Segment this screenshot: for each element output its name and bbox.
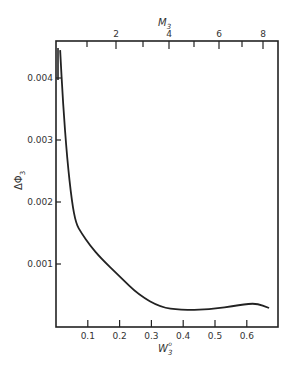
y-tick-label: 0.001: [27, 259, 53, 269]
plot-frame: [56, 41, 278, 327]
y-tick-label: 0.004: [27, 73, 53, 83]
y-axis-label: ΔΦ3: [13, 171, 27, 190]
top-axis-label: M3: [158, 17, 171, 31]
x-tick-label: 0.6: [240, 331, 255, 341]
top-axis-ticks: 2468: [87, 29, 266, 49]
top-tick-label: 2: [113, 29, 119, 39]
x-tick-label: 0.4: [176, 331, 191, 341]
y-tick-label: 0.003: [27, 135, 53, 145]
x-axis-ticks: 0.10.20.30.40.50.6: [81, 320, 255, 341]
x-tick-label: 0.1: [81, 331, 95, 341]
y-tick-label: 0.002: [27, 197, 53, 207]
x-tick-label: 0.2: [112, 331, 126, 341]
x-tick-label: 0.5: [208, 331, 222, 341]
top-tick-label: 8: [260, 29, 266, 39]
x-axis-label: W3o: [158, 340, 172, 357]
x-tick-label: 0.3: [144, 331, 158, 341]
top-tick-label: 6: [216, 29, 222, 39]
chart: 0.10.20.30.40.50.6 0.0010.0020.0030.004 …: [0, 0, 293, 368]
data-line: [60, 50, 269, 310]
